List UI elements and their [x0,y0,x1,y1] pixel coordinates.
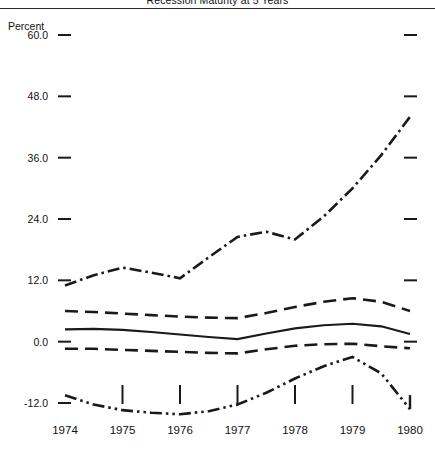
x-axis-ticks [123,385,353,404]
data-series-line [65,324,410,339]
plot-area [0,0,435,449]
chart-figure: Recession Maturity at 5 Years Percent -1… [0,0,435,449]
data-series-line [65,117,410,286]
y-axis-ticks-right [404,35,417,342]
data-series-line [65,344,410,354]
data-series-layer [65,117,410,414]
data-series-line [65,298,410,318]
